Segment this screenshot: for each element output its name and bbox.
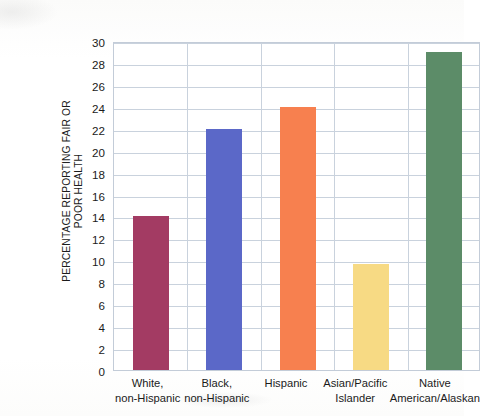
y-axis-tick-label: 28: [57, 57, 105, 70]
y-axis-tick-label: 26: [57, 79, 105, 92]
x-axis-category-label: Black,non-Hispanic: [182, 376, 251, 416]
x-axis-category-label-line: Black,: [182, 376, 251, 391]
bar: [133, 216, 169, 370]
y-axis-tick-label: 4: [57, 321, 105, 334]
bar: [280, 107, 316, 370]
x-axis-category-label: Asian/PacificIslander: [321, 376, 390, 416]
y-axis-tick-label: 16: [57, 189, 105, 202]
bars-layer: [114, 43, 479, 370]
y-axis-tick-label: 24: [57, 101, 105, 114]
y-axis-tick-label: 14: [57, 211, 105, 224]
bar: [206, 129, 242, 370]
bar-chart: PERCENTAGE REPORTING FAIR OR POOR HEALTH…: [40, 16, 484, 416]
y-axis-tick-label: 0: [57, 365, 105, 378]
bar: [426, 52, 462, 370]
x-axis-category-label-line: non-Hispanic: [113, 391, 182, 406]
x-axis-category-labels: White,non-HispanicBlack,non-HispanicHisp…: [113, 376, 480, 416]
x-axis-category-label-line: White,: [113, 376, 182, 391]
x-axis-category-label: NativeAmerican/Alaskan: [390, 376, 480, 416]
y-axis-tick-label: 12: [57, 233, 105, 246]
plot-area: [113, 42, 480, 371]
y-axis-tick-label: 6: [57, 299, 105, 312]
y-axis-tick-label: 2: [57, 343, 105, 356]
x-axis-category-label-line: Asian/Pacific: [321, 376, 390, 391]
y-axis-tick-label: 18: [57, 167, 105, 180]
y-axis-tick-label: 10: [57, 255, 105, 268]
x-axis-category-label-line: Hispanic: [251, 376, 320, 391]
x-axis-category-label-line: Native: [390, 376, 480, 391]
y-axis-tick-label: 8: [57, 277, 105, 290]
y-axis-tick-label: 30: [57, 36, 105, 49]
x-axis-category-label: White,non-Hispanic: [113, 376, 182, 416]
y-axis-tick-label: 22: [57, 123, 105, 136]
x-axis-category-label-line: Islander: [321, 391, 390, 406]
y-axis-tick-label: 20: [57, 145, 105, 158]
bar: [353, 264, 389, 370]
x-axis-category-label-line: non-Hispanic: [182, 391, 251, 406]
x-axis-category-label: Hispanic: [251, 376, 320, 416]
x-axis-category-label-line: American/Alaskan: [390, 391, 480, 406]
